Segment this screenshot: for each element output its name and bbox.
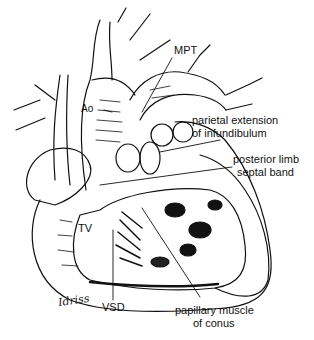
heart-outline bbox=[32, 122, 271, 312]
ventricle-floor bbox=[90, 282, 218, 286]
tricuspid-chordae bbox=[116, 212, 142, 266]
label-vsd: VSD bbox=[102, 301, 125, 313]
right-atrium bbox=[27, 148, 91, 205]
label-posterior-line2: septal band bbox=[237, 166, 294, 178]
label-ao: Ao bbox=[81, 103, 93, 115]
label-parietal-line2: of infundibulum bbox=[192, 127, 267, 139]
trabecular-hole bbox=[208, 200, 222, 210]
infundibular-muscle bbox=[140, 142, 160, 174]
label-posterior-line1: posterior limb bbox=[233, 153, 299, 165]
left-pulmonary-branches bbox=[14, 85, 55, 130]
heart-illustration: MPT Ao parietal extension of infundibulu… bbox=[0, 0, 314, 340]
pulmonary-valve-cusp bbox=[173, 122, 193, 142]
vessel-top-branches bbox=[118, 8, 170, 60]
trabecular-hole bbox=[180, 244, 196, 256]
trabecular-hole bbox=[151, 257, 169, 267]
label-papillary-line1: papillary muscle bbox=[175, 304, 254, 316]
label-tv: TV bbox=[78, 222, 92, 234]
superior-vena-cava bbox=[54, 75, 70, 185]
label-papillary-line2: of conus bbox=[193, 317, 235, 329]
shading bbox=[58, 86, 174, 266]
leader-parietal bbox=[160, 140, 220, 152]
leader-posterior bbox=[100, 167, 232, 185]
aortic-valve-cusp bbox=[116, 144, 140, 172]
label-parietal-line1: parietal extension bbox=[192, 114, 278, 126]
pulmonary-valve-cusp bbox=[151, 124, 173, 146]
trabecular-hole bbox=[189, 222, 211, 238]
right-pulmonary-branches bbox=[188, 45, 262, 110]
pulmonary-trunk bbox=[130, 72, 226, 120]
label-mpt: MPT bbox=[174, 44, 197, 56]
leader-mpt bbox=[142, 58, 172, 112]
trabecular-hole bbox=[165, 203, 185, 217]
